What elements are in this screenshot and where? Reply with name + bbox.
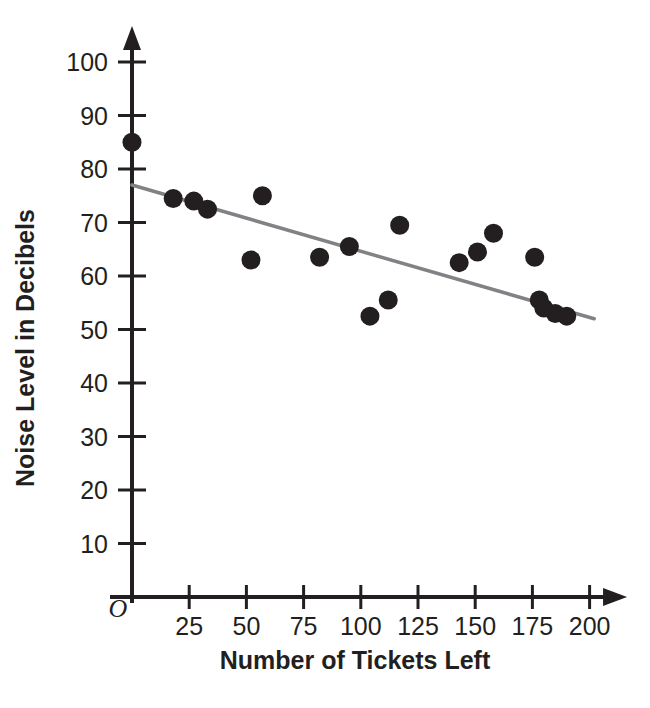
data-point bbox=[450, 253, 469, 272]
data-point bbox=[241, 250, 260, 269]
y-axis-tick-labels: 102030405060708090100 bbox=[66, 48, 108, 558]
data-point bbox=[390, 216, 409, 235]
data-point bbox=[310, 248, 329, 267]
y-axis-tick-label: 80 bbox=[80, 155, 108, 183]
y-axis-tick-label: 100 bbox=[66, 48, 108, 76]
data-point bbox=[198, 200, 217, 219]
data-point bbox=[557, 307, 576, 326]
data-point-group bbox=[123, 133, 577, 326]
data-point bbox=[484, 224, 503, 243]
x-axis-arrowhead bbox=[603, 588, 627, 606]
x-axis-tick-label: 150 bbox=[454, 612, 496, 640]
data-point bbox=[360, 307, 379, 326]
y-axis-tick-label: 90 bbox=[80, 102, 108, 130]
y-axis-tick-label: 10 bbox=[80, 530, 108, 558]
x-axis-tick-label: 50 bbox=[232, 612, 260, 640]
plot-canvas: 102030405060708090100 255075100125150175… bbox=[0, 0, 650, 708]
scatter-plot-chart: 102030405060708090100 255075100125150175… bbox=[0, 0, 650, 708]
data-point bbox=[123, 133, 142, 152]
y-axis-arrowhead bbox=[123, 26, 141, 50]
x-axis-tick-label: 200 bbox=[569, 612, 611, 640]
y-axis-tick-label: 40 bbox=[80, 369, 108, 397]
data-point bbox=[253, 186, 272, 205]
x-axis-tick-label: 25 bbox=[175, 612, 203, 640]
origin-label: O bbox=[109, 594, 128, 623]
x-axis-tick-label: 100 bbox=[340, 612, 382, 640]
data-point bbox=[164, 189, 183, 208]
y-axis-group: 102030405060708090100 bbox=[66, 26, 146, 603]
x-axis-tick-labels: 255075100125150175200 bbox=[175, 612, 610, 640]
x-axis-tick-label: 125 bbox=[397, 612, 439, 640]
data-point bbox=[468, 242, 487, 261]
x-axis-tick-label: 75 bbox=[290, 612, 318, 640]
y-axis-tick-label: 70 bbox=[80, 209, 108, 237]
y-axis-tick-label: 30 bbox=[80, 423, 108, 451]
data-point bbox=[340, 237, 359, 256]
y-axis-tick-label: 50 bbox=[80, 316, 108, 344]
x-axis-title: Number of Tickets Left bbox=[220, 646, 491, 674]
y-axis-tick-label: 20 bbox=[80, 476, 108, 504]
data-point bbox=[525, 248, 544, 267]
y-axis-title: Noise Level in Decibels bbox=[11, 209, 39, 487]
x-axis-tick-label: 175 bbox=[512, 612, 554, 640]
x-axis-group: 255075100125150175200 bbox=[110, 585, 627, 640]
y-axis-tick-label: 60 bbox=[80, 262, 108, 290]
data-point bbox=[379, 291, 398, 310]
